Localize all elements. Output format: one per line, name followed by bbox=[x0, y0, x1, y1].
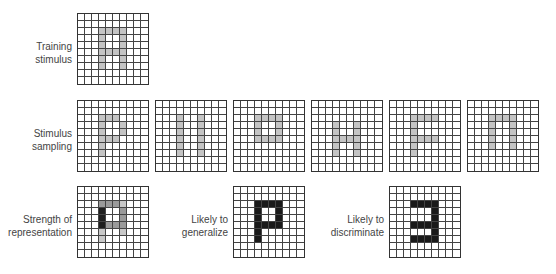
grid-cell bbox=[241, 136, 248, 143]
grid-cell bbox=[510, 164, 517, 171]
grid-cell bbox=[92, 215, 99, 222]
grid-cell bbox=[241, 115, 248, 122]
grid-cell bbox=[262, 222, 269, 229]
grid-cell bbox=[262, 157, 269, 164]
grid-cell bbox=[234, 229, 241, 236]
grid-cell bbox=[468, 150, 475, 157]
grid-cell bbox=[276, 222, 283, 229]
grid-cell bbox=[319, 122, 326, 129]
grid-cell bbox=[404, 115, 411, 122]
grid-cell bbox=[113, 108, 120, 115]
grid-cell bbox=[475, 157, 482, 164]
grid-cell bbox=[283, 201, 290, 208]
grid-cell bbox=[496, 129, 503, 136]
grid-cell bbox=[361, 129, 368, 136]
grid-cell bbox=[368, 157, 375, 164]
grid-cell bbox=[290, 136, 297, 143]
grid-cell bbox=[418, 236, 425, 243]
grid-cell bbox=[397, 108, 404, 115]
grid-cell bbox=[99, 129, 106, 136]
grid-cell bbox=[404, 201, 411, 208]
grid-cell bbox=[99, 143, 106, 150]
grid-cell bbox=[106, 157, 113, 164]
grid-cell bbox=[446, 150, 453, 157]
grid-cell bbox=[113, 194, 120, 201]
grid-cell bbox=[411, 201, 418, 208]
grid-cell bbox=[141, 157, 148, 164]
grid-cell bbox=[134, 70, 141, 77]
grid-cell bbox=[127, 42, 134, 49]
grid-cell bbox=[411, 215, 418, 222]
grid-cell bbox=[241, 143, 248, 150]
grid-cell bbox=[99, 194, 106, 201]
discriminate-label: Likely to discriminate bbox=[300, 213, 384, 239]
grid-cell bbox=[113, 115, 120, 122]
grid-cell bbox=[432, 115, 439, 122]
grid-cell bbox=[85, 42, 92, 49]
grid-cell bbox=[453, 250, 460, 257]
grid-cell bbox=[411, 129, 418, 136]
grid-cell bbox=[92, 143, 99, 150]
grid-cell bbox=[475, 129, 482, 136]
grid-cell bbox=[106, 108, 113, 115]
grid-cell bbox=[283, 229, 290, 236]
grid-cell bbox=[269, 201, 276, 208]
grid-cell bbox=[326, 101, 333, 108]
grid-cell bbox=[283, 136, 290, 143]
grid-cell bbox=[113, 143, 120, 150]
grid-cell bbox=[78, 208, 85, 215]
grid-cell bbox=[439, 164, 446, 171]
grid-cell bbox=[297, 129, 304, 136]
grid-cell bbox=[156, 157, 163, 164]
grid-cell bbox=[106, 101, 113, 108]
grid-cell bbox=[191, 108, 198, 115]
grid-cell bbox=[127, 21, 134, 28]
grid-cell bbox=[120, 194, 127, 201]
grid-cell bbox=[248, 164, 255, 171]
grid-cell bbox=[262, 243, 269, 250]
grid-cell bbox=[340, 164, 347, 171]
grid-cell bbox=[92, 115, 99, 122]
grid-cell bbox=[99, 229, 106, 236]
grid-cell bbox=[290, 164, 297, 171]
grid-cell bbox=[241, 236, 248, 243]
grid-cell bbox=[482, 150, 489, 157]
grid-cell bbox=[262, 115, 269, 122]
grid-cell bbox=[248, 194, 255, 201]
grid-cell bbox=[205, 150, 212, 157]
grid-cell bbox=[212, 157, 219, 164]
grid-cell bbox=[191, 157, 198, 164]
grid-cell bbox=[453, 164, 460, 171]
grid-cell bbox=[524, 108, 531, 115]
grid-cell bbox=[489, 143, 496, 150]
grid-cell bbox=[113, 136, 120, 143]
grid-cell bbox=[283, 157, 290, 164]
grid-cell bbox=[418, 136, 425, 143]
grid-cell bbox=[92, 14, 99, 21]
grid-cell bbox=[191, 122, 198, 129]
grid-cell bbox=[85, 150, 92, 157]
grid-cell bbox=[198, 108, 205, 115]
grid-cell bbox=[184, 136, 191, 143]
grid-cell bbox=[156, 122, 163, 129]
grid-cell bbox=[78, 187, 85, 194]
grid-cell bbox=[78, 215, 85, 222]
grid-cell bbox=[248, 201, 255, 208]
grid-cell bbox=[141, 129, 148, 136]
grid-cell bbox=[99, 21, 106, 28]
training-stimulus-grid bbox=[77, 13, 149, 85]
grid-cell bbox=[361, 101, 368, 108]
grid-cell bbox=[99, 115, 106, 122]
grid-cell bbox=[134, 77, 141, 84]
grid-cell bbox=[517, 101, 524, 108]
grid-cell bbox=[276, 143, 283, 150]
sample-grid-2 bbox=[155, 100, 227, 172]
grid-cell bbox=[85, 21, 92, 28]
grid-cell bbox=[141, 187, 148, 194]
grid-cell bbox=[170, 164, 177, 171]
grid-cell bbox=[141, 35, 148, 42]
grid-cell bbox=[446, 201, 453, 208]
grid-cell bbox=[425, 243, 432, 250]
grid-cell bbox=[184, 115, 191, 122]
grid-cell bbox=[439, 129, 446, 136]
